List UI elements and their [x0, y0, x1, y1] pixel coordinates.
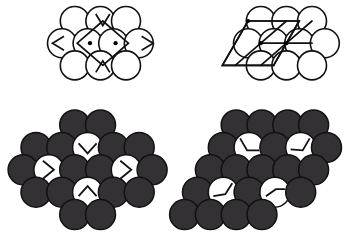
sphere-dark	[286, 177, 316, 207]
lattice-node-dot	[114, 41, 118, 45]
sphere-white	[272, 51, 301, 80]
circle-lattice-figure	[0, 0, 362, 241]
sphere-dark	[247, 200, 277, 230]
sphere-dark	[124, 177, 154, 207]
sphere-dark	[86, 200, 116, 230]
top-left-panel	[48, 7, 154, 80]
lattice-node-dot	[246, 19, 250, 23]
figure-container	[0, 0, 362, 241]
lattice-node-dot	[88, 41, 92, 45]
sphere-white	[112, 51, 141, 80]
lattice-node-dot	[259, 41, 263, 45]
lattice-node-dot	[284, 41, 288, 45]
sphere-white	[60, 51, 89, 80]
sphere-white	[298, 51, 327, 80]
